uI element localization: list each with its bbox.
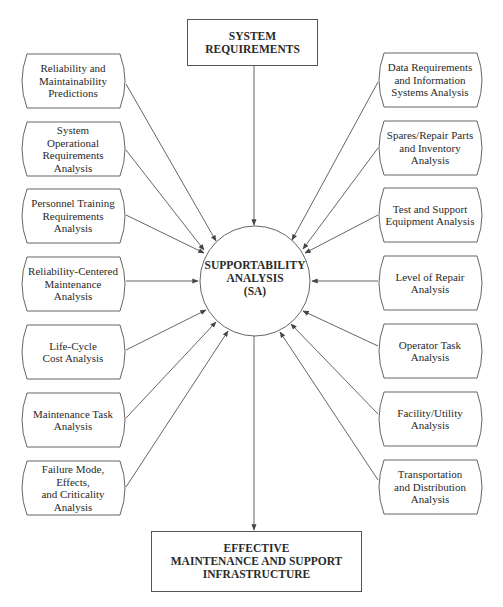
node-reliability-maintainability-predictions: Reliability and Maintainability Predicti… xyxy=(20,54,126,108)
arrow-right-1 xyxy=(292,82,378,240)
node-reliability-centered-maintenance: Reliability-Centered Maintenance Analysi… xyxy=(20,257,126,311)
node-label: Level of Repair Analysis xyxy=(395,271,464,296)
node-fmeca: Failure Mode, Effects, and Criticality A… xyxy=(20,461,126,515)
arrow-left-5 xyxy=(126,310,206,350)
node-label: Reliability-Centered Maintenance Analysi… xyxy=(28,265,118,303)
node-label: Transportation and Distribution Analysis xyxy=(394,468,466,506)
arrow-right-3 xyxy=(305,215,378,253)
supportability-analysis-label: SUPPORTABILITY ANALYSIS (SA) xyxy=(201,259,309,298)
node-transportation-distribution: Transportation and Distribution Analysis xyxy=(377,460,483,514)
node-label: Facility/Utility Analysis xyxy=(397,407,462,432)
system-requirements-label: SYSTEM REQUIREMENTS xyxy=(205,30,300,56)
node-label: Operator Task Analysis xyxy=(399,339,461,364)
node-label: Failure Mode, Effects, and Criticality A… xyxy=(26,463,120,513)
node-facility-utility: Facility/Utility Analysis xyxy=(377,392,483,446)
node-system-operational-requirements: System Operational Requirements Analysis xyxy=(20,122,126,176)
node-label: Maintenance Task Analysis xyxy=(33,408,113,433)
arrow-right-7 xyxy=(280,332,378,480)
node-operator-task: Operator Task Analysis xyxy=(377,324,483,378)
node-label: Life-Cycle Cost Analysis xyxy=(43,340,104,365)
node-personnel-training-requirements: Personnel Training Requirements Analysis xyxy=(20,189,126,243)
node-data-requirements: Data Requirements and Information System… xyxy=(377,53,483,107)
node-label: Test and Support Equipment Analysis xyxy=(386,203,475,228)
node-level-of-repair: Level of Repair Analysis xyxy=(377,256,483,310)
effective-infrastructure-box: EFFECTIVE MAINTENANCE AND SUPPORT INFRAS… xyxy=(151,531,362,592)
node-spares-repair-parts: Spares/Repair Parts and Inventory Analys… xyxy=(377,121,483,175)
arrow-left-1 xyxy=(126,84,216,241)
node-label: System Operational Requirements Analysis xyxy=(42,124,103,174)
arrow-right-5 xyxy=(303,311,378,346)
node-label: Data Requirements and Information System… xyxy=(388,61,473,99)
effective-infrastructure-label: EFFECTIVE MAINTENANCE AND SUPPORT INFRAS… xyxy=(171,542,342,581)
arrow-left-3 xyxy=(126,215,204,253)
node-life-cycle-cost: Life-Cycle Cost Analysis xyxy=(20,325,126,379)
arrow-left-7 xyxy=(126,331,228,487)
node-label: Reliability and Maintainability Predicti… xyxy=(39,62,107,100)
node-maintenance-task: Maintenance Task Analysis xyxy=(20,393,126,447)
node-label: Personnel Training Requirements Analysis xyxy=(31,197,114,235)
node-test-support-equipment: Test and Support Equipment Analysis xyxy=(377,188,483,242)
node-label: Spares/Repair Parts and Inventory Analys… xyxy=(387,129,473,167)
system-requirements-box: SYSTEM REQUIREMENTS xyxy=(187,19,318,66)
